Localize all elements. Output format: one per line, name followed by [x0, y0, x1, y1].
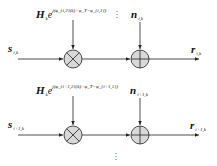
input-label-2: si+1,k — [8, 119, 24, 131]
row-1-paths — [18, 20, 199, 59]
row-2-paths — [18, 96, 199, 135]
adder-node-2 — [131, 126, 149, 144]
noise-label-1: ni,k — [131, 9, 143, 21]
noise-label-2: ni+1,k — [130, 85, 148, 97]
multiplier-node-1 — [64, 50, 82, 68]
input-label-1: si,k — [8, 43, 18, 55]
ellipsis-top: ··· — [114, 10, 120, 19]
adder-node-1 — [131, 50, 149, 68]
output-label-1: ri,k — [191, 44, 201, 56]
channel-gain-label-1: Hkej(φ_{i,2}(k)+φ_T−φ_{i,1}) — [36, 8, 106, 21]
channel-gain-label-2: Hkej(φ_{i+1,2}(k)+φ_T−φ_{i+1,1}) — [36, 84, 118, 97]
output-label-2: ri+1,k — [190, 120, 206, 132]
multiplier-node-2 — [64, 126, 82, 144]
ellipsis-bottom: ··· — [113, 152, 119, 161]
diagram-canvas — [0, 0, 217, 166]
